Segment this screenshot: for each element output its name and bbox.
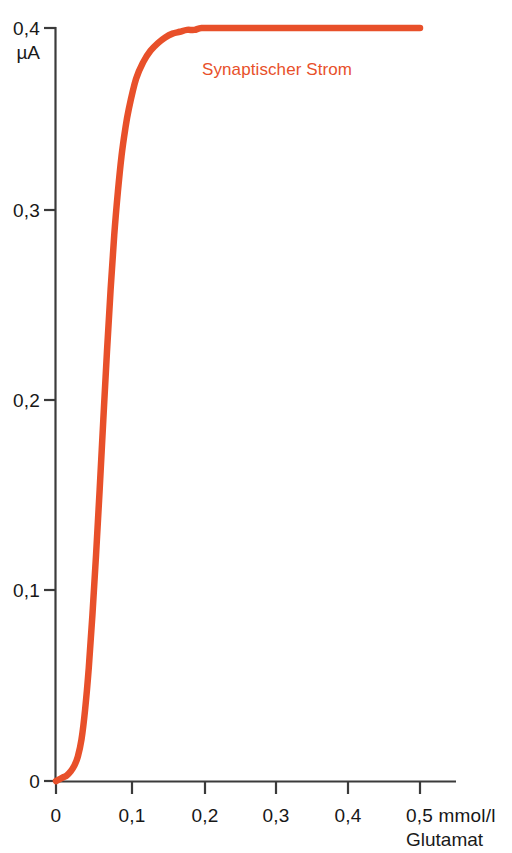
x-axis-label-0-3: 0,3 <box>262 806 289 825</box>
y-axis-unit-microamp: µA <box>0 42 40 64</box>
y-axis-label-0: 0 <box>0 772 40 791</box>
x-axis-label-glutamat: Glutamat <box>406 829 483 851</box>
chart-container: 0,4 µA 0,3 0,2 0,1 0 0 0,1 0,2 0,3 0,4 0… <box>0 0 512 853</box>
x-axis-label-0-4: 0,4 <box>334 806 361 825</box>
x-axis-label-0: 0 <box>51 806 62 825</box>
x-axis-ticks <box>56 781 420 794</box>
y-axis-label-0-1: 0,1 <box>0 581 40 600</box>
series-annotation-synaptischer-strom: Synaptischer Strom <box>202 60 352 80</box>
chart-plot-svg <box>0 0 512 853</box>
y-axis-label-0-3: 0,3 <box>0 201 40 220</box>
y-axis-label-0-4: 0,4 <box>0 19 40 38</box>
y-axis-label-0-2: 0,2 <box>0 391 40 410</box>
y-axis-ticks <box>44 28 56 781</box>
x-axis-label-0-1: 0,1 <box>118 806 145 825</box>
x-axis-label-0-2: 0,2 <box>191 806 218 825</box>
x-axis-label-0-5-unit: 0,5 mmol/l <box>406 806 496 825</box>
series-curve-synaptischer-strom <box>56 28 420 781</box>
